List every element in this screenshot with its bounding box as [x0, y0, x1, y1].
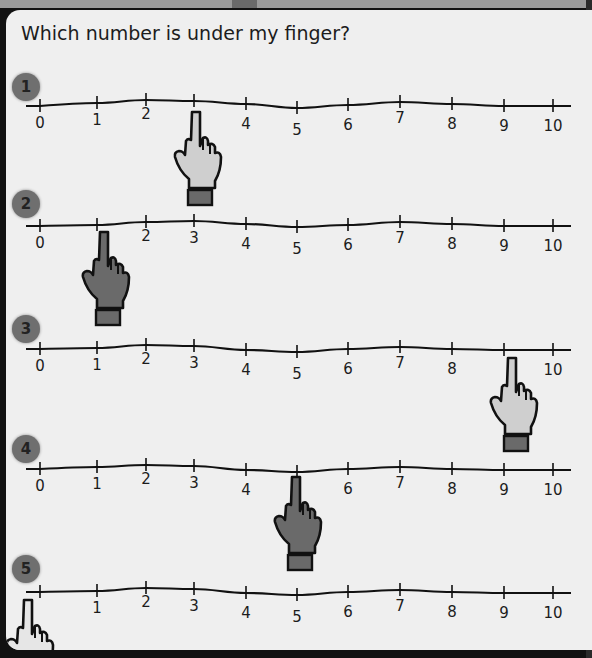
tick-label: 5 [292, 240, 302, 258]
tick-label: 2 [141, 470, 151, 488]
top-tab [232, 0, 257, 8]
tick-label: 6 [343, 480, 353, 498]
pointing-hand-icon [484, 356, 540, 456]
tick-label: 10 [543, 117, 562, 135]
tick-label: 2 [141, 227, 151, 245]
tick-label: 4 [241, 604, 251, 622]
tick-label: 3 [189, 597, 199, 615]
tick-label: 7 [395, 109, 405, 127]
tick-label: 10 [543, 481, 562, 499]
tick-label: 6 [343, 236, 353, 254]
tick-label: 8 [447, 480, 457, 498]
tick-label: 0 [35, 234, 45, 252]
page-title: Which number is under my finger? [21, 22, 350, 44]
tick-label: 10 [543, 361, 562, 379]
pointing-hand-icon [168, 110, 224, 210]
tick-label: 4 [241, 481, 251, 499]
tick-label: 0 [35, 357, 45, 375]
tick-label: 9 [499, 237, 509, 255]
tick-label: 4 [241, 115, 251, 133]
tick-label: 8 [447, 360, 457, 378]
tick-label: 7 [395, 229, 405, 247]
tick-label: 3 [189, 474, 199, 492]
tick-label: 2 [141, 593, 151, 611]
tick-label: 9 [499, 481, 509, 499]
tick-label: 6 [343, 116, 353, 134]
tick-label: 3 [189, 354, 199, 372]
tick-label: 8 [447, 235, 457, 253]
tick-label: 0 [35, 114, 45, 132]
tick-label: 9 [499, 604, 509, 622]
tick-label: 2 [141, 105, 151, 123]
pointing-hand-icon [76, 230, 132, 330]
tick-label: 8 [447, 603, 457, 621]
number-line-5: 12345678910 [6, 578, 592, 638]
tick-label: 6 [343, 603, 353, 621]
pointing-hand-icon [6, 598, 56, 650]
tick-label: 5 [292, 365, 302, 383]
tick-label: 8 [447, 115, 457, 133]
number-line-1: 01245678910 [6, 92, 592, 152]
tick-label: 7 [395, 474, 405, 492]
tick-label: 9 [499, 117, 509, 135]
tick-label: 10 [543, 237, 562, 255]
worksheet-page: Which number is under my finger? 1 2 3 4… [6, 10, 592, 650]
tick-label: 5 [292, 608, 302, 626]
tick-label: 0 [35, 477, 45, 495]
pointing-hand-icon [268, 475, 324, 575]
tick-label: 6 [343, 360, 353, 378]
tick-label: 1 [92, 356, 102, 374]
tick-label: 10 [543, 604, 562, 622]
tick-label: 4 [241, 235, 251, 253]
tick-label: 5 [292, 121, 302, 139]
tick-label: 7 [395, 597, 405, 615]
tick-label: 4 [241, 361, 251, 379]
tick-label: 7 [395, 354, 405, 372]
tick-label: 3 [189, 229, 199, 247]
tick-label: 1 [92, 111, 102, 129]
tick-label: 2 [141, 350, 151, 368]
top-strip [0, 0, 586, 8]
tick-label: 1 [92, 475, 102, 493]
tick-label: 1 [92, 599, 102, 617]
